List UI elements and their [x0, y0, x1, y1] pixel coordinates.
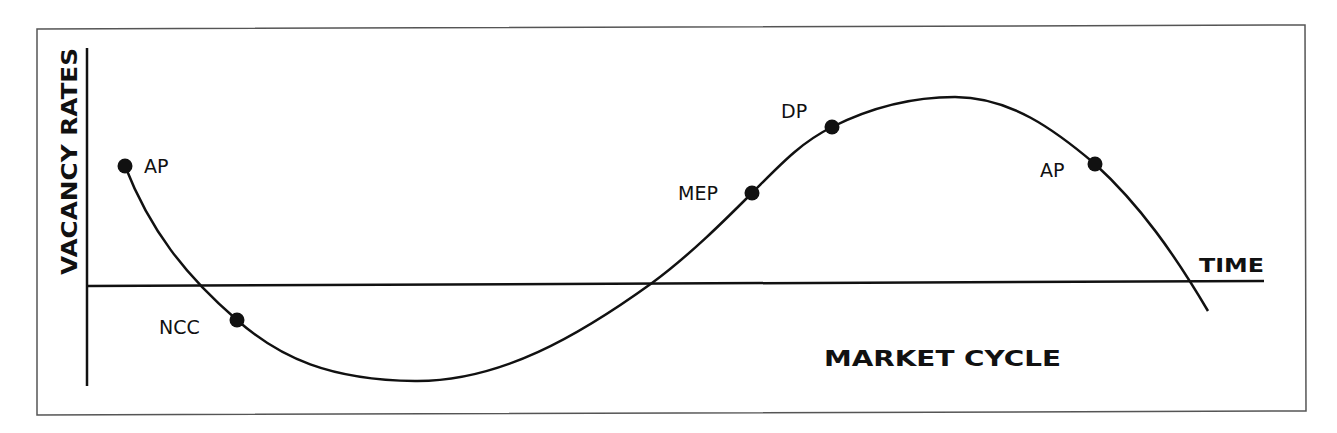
- point-ncc-marker: [230, 313, 245, 328]
- point-mep-marker: [745, 186, 760, 201]
- diagram-caption: MARKET CYCLE: [824, 346, 1061, 371]
- time-axis-line: [87, 281, 1264, 286]
- point-ap-right-marker: [1088, 157, 1103, 172]
- market-cycle-curve: [125, 97, 1208, 381]
- point-ap-left-label: AP: [144, 155, 168, 177]
- diagram-frame: [37, 25, 1306, 415]
- point-ap-right-label: AP: [1040, 159, 1064, 181]
- y-axis-title: VACANCY RATES: [58, 48, 82, 275]
- point-ncc-label: NCC: [159, 316, 200, 338]
- point-mep-label: MEP: [678, 182, 718, 204]
- point-ap-left-marker: [118, 159, 133, 174]
- market-cycle-diagram: AP NCC MEP DP AP VACANCY RATES TIME MARK…: [0, 0, 1337, 433]
- point-dp-label: DP: [781, 100, 807, 122]
- x-axis-title: TIME: [1199, 253, 1264, 277]
- point-dp-marker: [825, 120, 840, 135]
- diagram-canvas: AP NCC MEP DP AP VACANCY RATES TIME MARK…: [0, 0, 1337, 433]
